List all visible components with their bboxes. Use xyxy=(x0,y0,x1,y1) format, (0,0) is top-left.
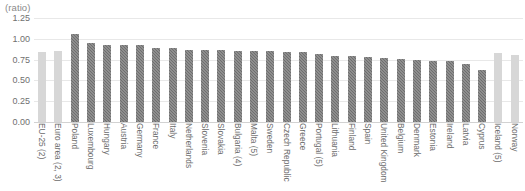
x-axis-tick: United Kingdom xyxy=(376,123,392,191)
bar xyxy=(478,70,486,122)
bar xyxy=(429,61,437,122)
x-axis-tick: Cyprus xyxy=(474,123,490,191)
bar xyxy=(103,45,111,122)
y-axis-tick-label: 0.00 xyxy=(12,117,30,127)
y-axis-tick-label: 0.50 xyxy=(12,75,30,85)
bar-slot xyxy=(311,18,327,122)
bar-slot xyxy=(295,18,311,122)
bar-slot xyxy=(132,18,148,122)
bar-slot xyxy=(458,18,474,122)
x-axis-tick: Malta (5) xyxy=(246,123,262,191)
y-axis-tick-label: 0.25 xyxy=(12,96,30,106)
plot-area xyxy=(34,18,523,122)
x-axis-tick: Poland xyxy=(67,123,83,191)
x-axis-tick-label: Austria xyxy=(119,123,127,149)
x-axis-tick-label: Portugal (5) xyxy=(314,123,322,167)
bar xyxy=(152,48,160,122)
x-axis-tick: Sweden xyxy=(262,123,278,191)
x-axis-tick-label: Finland xyxy=(347,123,355,150)
y-axis: 0.000.250.500.751.001.25 xyxy=(0,18,33,122)
bar-slot xyxy=(344,18,360,122)
y-axis-unit-label: (ratio) xyxy=(5,2,31,13)
x-axis-tick: Italy xyxy=(164,123,180,191)
bar xyxy=(462,64,470,122)
bar xyxy=(120,45,128,122)
bar xyxy=(397,59,405,122)
bar-slot xyxy=(246,18,262,122)
bar-slot xyxy=(360,18,376,122)
bar-slot xyxy=(115,18,131,122)
y-axis-tick-label: 0.75 xyxy=(12,55,30,65)
bar-slot xyxy=(507,18,523,122)
x-axis-tick-label: Slovenia xyxy=(200,123,208,155)
bar xyxy=(315,54,323,122)
x-axis-tick: Portugal (5) xyxy=(311,123,327,191)
x-axis-tick-label: Malta (5) xyxy=(249,123,257,156)
x-axis-tick-label: Italy xyxy=(168,123,176,138)
bar-slot xyxy=(327,18,343,122)
bar-slot xyxy=(262,18,278,122)
x-axis-tick: France xyxy=(148,123,164,191)
x-axis-tick-label: Poland xyxy=(70,123,78,149)
x-axis-tick-label: EU-25 (2) xyxy=(37,123,45,159)
x-axis-tick-label: Cyprus xyxy=(477,123,485,150)
bar-slot xyxy=(474,18,490,122)
x-axis-tick-label: Euro area (2, 3) xyxy=(54,123,62,182)
bar xyxy=(38,52,46,122)
bar-slot xyxy=(441,18,457,122)
bar xyxy=(331,56,339,122)
bar xyxy=(136,45,144,122)
x-axis-tick-label: Ireland xyxy=(445,123,453,149)
bar xyxy=(413,60,421,122)
bar xyxy=(185,50,193,122)
x-axis-tick-label: Czech Republic xyxy=(282,123,290,182)
bar-slot xyxy=(164,18,180,122)
y-axis-tick-label: 1.00 xyxy=(12,34,30,44)
bar xyxy=(299,52,307,122)
bar-slot xyxy=(490,18,506,122)
bar-slot xyxy=(425,18,441,122)
bar-slot xyxy=(197,18,213,122)
bar xyxy=(364,57,372,122)
x-axis-tick-label: Luxembourg xyxy=(86,123,94,170)
x-axis-tick-label: Germany xyxy=(135,123,143,157)
x-axis-tick: Austria xyxy=(115,123,131,191)
x-axis-tick: Netherlands xyxy=(181,123,197,191)
bar-chart: (ratio) 0.000.250.500.751.001.25 EU-25 (… xyxy=(0,0,525,191)
bar-slot xyxy=(181,18,197,122)
bar-slot xyxy=(278,18,294,122)
x-axis-tick: Spain xyxy=(360,123,376,191)
x-axis-tick-label: Latvia xyxy=(461,123,469,145)
x-axis-tick: Finland xyxy=(344,123,360,191)
bar xyxy=(169,48,177,122)
bar-slot xyxy=(67,18,83,122)
bar-slot xyxy=(148,18,164,122)
x-axis-tick-label: Iceland (5) xyxy=(494,123,502,163)
x-axis-tick: Norway xyxy=(507,123,523,191)
x-axis-tick-label: Sweden xyxy=(265,123,273,153)
bar-slot xyxy=(50,18,66,122)
bar-slot xyxy=(393,18,409,122)
x-axis-tick: Slovenia xyxy=(197,123,213,191)
x-axis-tick: Luxembourg xyxy=(83,123,99,191)
bar xyxy=(54,51,62,122)
x-axis-tick-label: Spain xyxy=(363,123,371,144)
bar xyxy=(446,61,454,122)
bar xyxy=(266,51,274,122)
plot-wrapper: 0.000.250.500.751.001.25 xyxy=(0,18,525,122)
x-axis-tick-label: Norway xyxy=(510,123,518,151)
x-axis-tick: Slovakia xyxy=(213,123,229,191)
bar xyxy=(348,56,356,122)
x-axis-tick: Greece xyxy=(295,123,311,191)
x-axis-tick: Czech Republic xyxy=(278,123,294,191)
x-axis-tick: Ireland xyxy=(441,123,457,191)
bar xyxy=(217,50,225,122)
x-axis-tick: Latvia xyxy=(458,123,474,191)
bar xyxy=(511,55,519,122)
x-axis-tick-label: Lithuania xyxy=(331,123,339,157)
x-axis-tick-label: Belgium xyxy=(396,123,404,153)
x-axis-tick: Euro area (2, 3) xyxy=(50,123,66,191)
x-axis-tick: Estonia xyxy=(425,123,441,191)
bar-series xyxy=(34,18,523,122)
x-axis-tick-label: France xyxy=(151,123,159,149)
